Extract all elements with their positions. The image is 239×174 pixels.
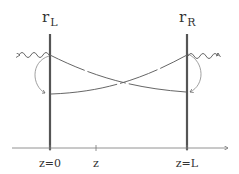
axis-label-zL: z=L: [176, 157, 199, 170]
svg-text:rL: rL: [42, 8, 58, 29]
cavity-diagram: rL rR z=0 z z=L: [0, 0, 239, 174]
right-reflection-arc: [188, 54, 201, 92]
left-output-wave-icon: [19, 53, 49, 58]
axis-label-z0: z=0: [39, 157, 61, 170]
axis-label-z: z: [93, 157, 99, 170]
svg-text:rR: rR: [179, 8, 196, 29]
left-mirror-label: rL: [42, 8, 58, 29]
beam-forward-path: [50, 55, 186, 92]
right-output-wave-icon: [188, 53, 218, 59]
right-mirror-label: rR: [179, 8, 196, 29]
beam-backward-path: [51, 55, 187, 94]
left-reflection-arc: [35, 56, 49, 93]
